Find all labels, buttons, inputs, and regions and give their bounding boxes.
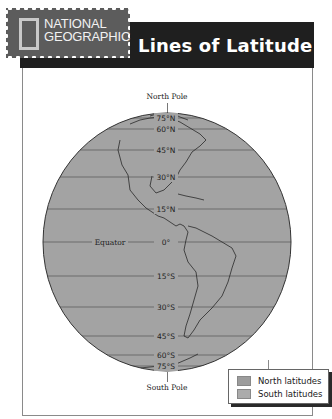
south-latitudes-swatch [237,389,251,399]
latitude-label: 30°S [157,303,175,312]
south-pole-tick [167,372,168,382]
legend-item-north: North latitudes [237,375,322,387]
legend-label-south: South latitudes [258,389,322,399]
legend-label-north: North latitudes [258,376,322,386]
latitude-label: 15°N [157,205,176,214]
latitude-label: 30°N [157,173,176,182]
south-pole-label: South Pole [147,383,188,392]
latitude-labels: 75°N60°N45°N30°N15°N0°15°S30°S45°S60°S75… [154,113,178,371]
latitude-label: 60°S [157,351,175,360]
legend-connector [268,360,269,369]
legend: North latitudes South latitudes [228,369,329,404]
latitude-label: 60°N [157,125,176,134]
equator-label: Equator [95,238,126,247]
latitude-label: 75°N [157,114,176,123]
legend-item-south: South latitudes [237,388,322,400]
north-latitudes-swatch [237,376,251,386]
latitude-label: 45°N [157,146,176,155]
latitude-label: 0° [162,238,171,247]
latitude-label: 45°S [157,332,175,341]
latitude-label: 15°S [157,272,175,281]
globe-map: 75°N60°N45°N30°N15°N0°15°S30°S45°S60°S75… [0,0,332,419]
latitude-label: 75°S [157,362,175,371]
